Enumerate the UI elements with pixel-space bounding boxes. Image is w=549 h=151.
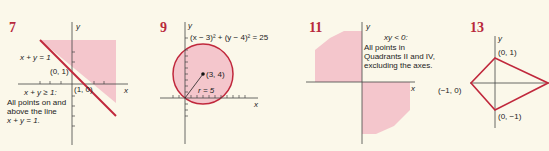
figure-11-graph	[280, 0, 415, 151]
inequality-label: xy < 0:	[384, 33, 408, 42]
description-line: above the line	[7, 107, 57, 116]
vertex-label-left: (−1, 0)	[438, 86, 461, 95]
point-label: (0, 1)	[50, 67, 69, 76]
description-line: All points on and	[7, 98, 66, 107]
inequality-label: x + y ≥ 1:	[24, 88, 57, 97]
radius-label: r = 5	[198, 86, 214, 95]
y-axis-label: y	[498, 34, 502, 43]
figure-number: 9	[160, 20, 167, 36]
x-axis-label: x	[124, 86, 128, 95]
figure-number: 11	[309, 20, 322, 36]
figure-7-graph	[0, 0, 140, 151]
figure-number: 13	[470, 20, 484, 36]
figure-9: 9 y x (x − 3)² + (y − 4)² = 25 (3, 4) r …	[140, 0, 280, 151]
line-equation-label: x + y = 1	[20, 53, 51, 62]
figure-13: 13 y (0, 1) (−1, 0) (0, −1)	[415, 0, 549, 151]
y-axis-label: y	[76, 22, 80, 31]
circle-equation: (x − 3)² + (y − 4)² = 25	[190, 33, 268, 42]
vertex-label-top: (0, 1)	[498, 48, 517, 57]
figure-11: 11 y xy < 0: All points in Quadrants II …	[280, 0, 415, 151]
vertex-label-bottom: (0, −1)	[498, 112, 521, 121]
x-axis-label: x	[254, 100, 258, 109]
figure-number: 7	[9, 20, 16, 36]
y-axis-label: y	[188, 21, 192, 30]
description-line: All points in	[364, 43, 405, 52]
center-label: (3, 4)	[206, 70, 225, 79]
figure-7: 7 y x x + y = 1 (0, 1) (1, 0) x + y ≥ 1:…	[0, 0, 140, 151]
point-label: (1, 0)	[74, 85, 93, 94]
y-axis-label: y	[366, 22, 370, 31]
description-line: x + y = 1.	[7, 116, 40, 125]
